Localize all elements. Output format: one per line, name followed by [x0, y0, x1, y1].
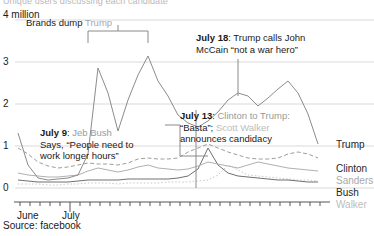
gridlines [15, 20, 374, 188]
annotation-july13-line1: July 13: Clinton to Trump: [180, 110, 290, 122]
annotation-july13-walker: Scott Walker [216, 122, 270, 133]
annotation-brands-highlight: Trump [85, 17, 112, 28]
series-label-trump: Trump [336, 139, 365, 150]
series-label-clinton: Clinton [336, 163, 367, 174]
annotation-july9-line2: Says, “People need to [40, 139, 133, 151]
annotation-july9-date: July 9 [40, 127, 67, 138]
annotation-july13-line3: announces candidacy [180, 133, 290, 145]
annotation-july18: July 18: Trump calls John McCain “not a … [196, 32, 305, 55]
annotation-july13-line2: “Basta”; Scott Walker [180, 122, 290, 134]
series-label-bush: Bush [336, 187, 359, 198]
annotation-brands-text: Brands dump [26, 17, 85, 28]
annotation-july13: July 13: Clinton to Trump: “Basta”; Scot… [180, 110, 290, 145]
annotation-july18-line1: July 18: Trump calls John [196, 32, 305, 44]
annotation-july9-line3: work longer hours” [40, 150, 133, 162]
bracket-brands-dump [88, 31, 148, 43]
source-note: Source: facebook [3, 220, 81, 231]
series-line-sanders [18, 162, 318, 177]
annotation-july9-line1: July 9: Jeb Bush [40, 127, 133, 139]
annotation-july18-date: July 18 [196, 32, 228, 43]
annotation-july13-subject: Clinton to Trump: [218, 110, 290, 121]
series-label-sanders: Sanders [336, 175, 373, 186]
annotation-brands-dump: Brands dump Trump [26, 17, 112, 29]
annotation-july9: July 9: Jeb Bush Says, “People need to w… [40, 127, 133, 162]
annotation-july18-line2: McCain “not a war hero” [196, 44, 305, 56]
chart-page: Unique users discussing each candidate 4… [0, 0, 374, 236]
annotation-july18-text1: Trump calls John [233, 32, 305, 43]
annotation-july13-basta: “Basta”; [180, 122, 216, 133]
series-label-walker: Walker [336, 199, 367, 210]
annotation-july9-subject: Jeb Bush [72, 127, 112, 138]
annotation-july13-date: July 13 [180, 110, 212, 121]
